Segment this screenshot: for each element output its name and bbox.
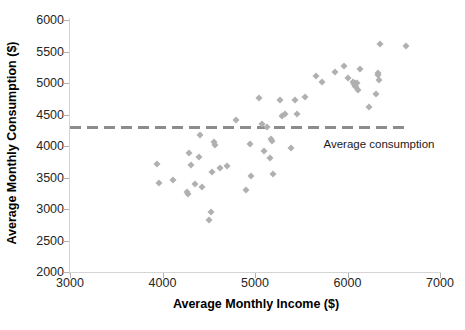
average-consumption-label: Average consumption	[323, 138, 434, 150]
x-axis-tick-label: 6000	[318, 277, 378, 290]
x-axis-tick-mark	[440, 273, 441, 278]
data-point-marker	[260, 148, 267, 155]
data-point-marker	[365, 103, 372, 110]
data-point-marker	[263, 124, 270, 131]
data-point-marker	[198, 183, 205, 190]
data-point-marker	[212, 142, 219, 149]
data-point-marker	[186, 150, 193, 157]
x-axis-tick-mark	[255, 273, 256, 278]
y-axis-tick-label: 3000	[20, 203, 64, 216]
data-point-marker	[269, 170, 276, 177]
data-point-marker	[340, 63, 347, 70]
y-axis-tick-mark	[63, 146, 69, 147]
data-point-marker	[376, 76, 383, 83]
data-point-marker	[355, 87, 362, 94]
y-axis-tick-labels: 200025003000350040004500500055006000	[14, 0, 64, 290]
data-point-marker	[195, 153, 202, 160]
x-axis-tick-label: 7000	[410, 277, 465, 290]
y-axis-tick-mark	[63, 20, 69, 21]
data-point-marker	[232, 116, 239, 123]
data-point-marker	[287, 145, 294, 152]
y-axis-tick-mark	[63, 241, 69, 242]
y-axis-tick-mark	[63, 115, 69, 116]
data-point-marker	[207, 209, 214, 216]
data-point-marker	[319, 79, 326, 86]
data-point-marker	[155, 179, 162, 186]
y-axis-tick-label: 4500	[20, 109, 64, 122]
data-point-marker	[188, 161, 195, 168]
x-axis-tick-mark	[70, 273, 71, 278]
x-axis-title: Average Monthly Income ($)	[70, 297, 442, 311]
data-point-marker	[356, 66, 363, 73]
data-point-marker	[377, 41, 384, 48]
data-point-marker	[247, 141, 254, 148]
y-axis-tick-label: 2500	[20, 235, 64, 248]
x-axis-tick-mark	[348, 273, 349, 278]
data-point-marker	[313, 72, 320, 79]
data-point-marker	[302, 93, 309, 100]
average-consumption-reference-line	[70, 126, 406, 129]
data-point-marker	[294, 110, 301, 117]
data-point-marker	[153, 160, 160, 167]
scatter-chart: Average Monthly Consumption ($) 20002500…	[0, 0, 465, 330]
data-point-marker	[248, 172, 255, 179]
x-axis-tick-labels: 30004000500060007000	[0, 277, 465, 297]
y-axis-tick-mark	[63, 178, 69, 179]
x-axis-tick-label: 5000	[225, 277, 285, 290]
y-axis-tick-label: 5500	[20, 46, 64, 59]
y-axis-tick-label: 6000	[20, 14, 64, 27]
data-point-marker	[331, 68, 338, 75]
y-axis-tick-mark	[63, 83, 69, 84]
data-point-marker	[224, 162, 231, 169]
data-point-marker	[205, 216, 212, 223]
data-point-marker	[208, 168, 215, 175]
y-axis-tick-label: 5000	[20, 77, 64, 90]
data-point-marker	[169, 177, 176, 184]
x-axis-tick-label: 3000	[40, 277, 100, 290]
x-axis-tick-mark	[163, 273, 164, 278]
data-point-marker	[291, 97, 298, 104]
data-point-marker	[256, 95, 263, 102]
y-axis-tick-mark	[63, 272, 69, 273]
x-axis-tick-label: 4000	[133, 277, 193, 290]
plot-area: Average consumption	[70, 20, 440, 272]
y-axis-tick-label: 3500	[20, 172, 64, 185]
y-axis-tick-mark	[63, 52, 69, 53]
data-point-marker	[243, 186, 250, 193]
y-axis-tick-mark	[63, 209, 69, 210]
data-point-marker	[373, 90, 380, 97]
y-axis-tick-label: 4000	[20, 140, 64, 153]
data-point-marker	[276, 97, 283, 104]
data-point-marker	[266, 154, 273, 161]
data-point-marker	[196, 132, 203, 139]
data-point-marker	[402, 42, 409, 49]
